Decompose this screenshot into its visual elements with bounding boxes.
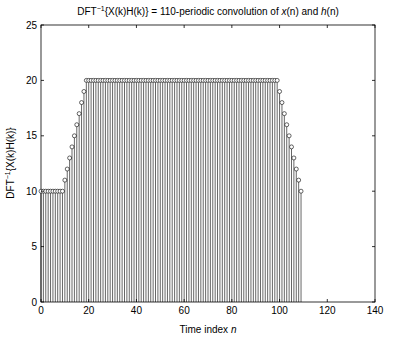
stem-chart: DFT−1{X(k)H(k)} = 110-periodic convoluti… <box>0 0 408 338</box>
stem-marker <box>282 112 286 116</box>
stem-marker <box>77 112 81 116</box>
stem-marker <box>70 145 74 149</box>
x-tick-label: 120 <box>319 305 336 316</box>
stem-marker <box>60 189 64 193</box>
stem-marker <box>65 167 69 171</box>
x-tick-label: 80 <box>226 305 238 316</box>
stem-marker <box>297 178 301 182</box>
stem-marker <box>290 145 294 149</box>
x-tick-label: 20 <box>83 305 95 316</box>
stem-marker <box>75 123 79 127</box>
y-tick-label: 15 <box>26 130 38 141</box>
stem-marker <box>287 134 291 138</box>
stem-marker <box>285 123 289 127</box>
y-tick-label: 25 <box>26 20 38 31</box>
stem-marker <box>275 78 279 82</box>
x-tick-label: 0 <box>38 305 44 316</box>
x-tick-label: 40 <box>131 305 143 316</box>
stem-marker <box>72 134 76 138</box>
y-axis-label: DFT−1{X(k)H(k)} <box>4 127 16 199</box>
x-tick-label: 60 <box>179 305 191 316</box>
stem-marker <box>63 178 67 182</box>
y-tick-label: 0 <box>31 297 37 308</box>
stem-marker <box>294 167 298 171</box>
stem-marker <box>80 101 84 105</box>
y-tick-label: 5 <box>31 241 37 252</box>
stem-marker <box>280 101 284 105</box>
plot-area <box>39 25 375 302</box>
stem-marker <box>82 89 86 93</box>
y-tick-label: 20 <box>26 75 38 86</box>
chart-title: DFT−1{X(k)H(k)} = 110-periodic convoluti… <box>77 5 339 17</box>
y-tick-label: 10 <box>26 186 38 197</box>
stem-marker <box>299 189 303 193</box>
x-tick-label: 140 <box>367 305 384 316</box>
stem-marker <box>278 89 282 93</box>
stem-marker <box>68 156 72 160</box>
x-axis-label: Time index n <box>180 324 237 335</box>
x-tick-label: 100 <box>271 305 288 316</box>
stem-marker <box>292 156 296 160</box>
